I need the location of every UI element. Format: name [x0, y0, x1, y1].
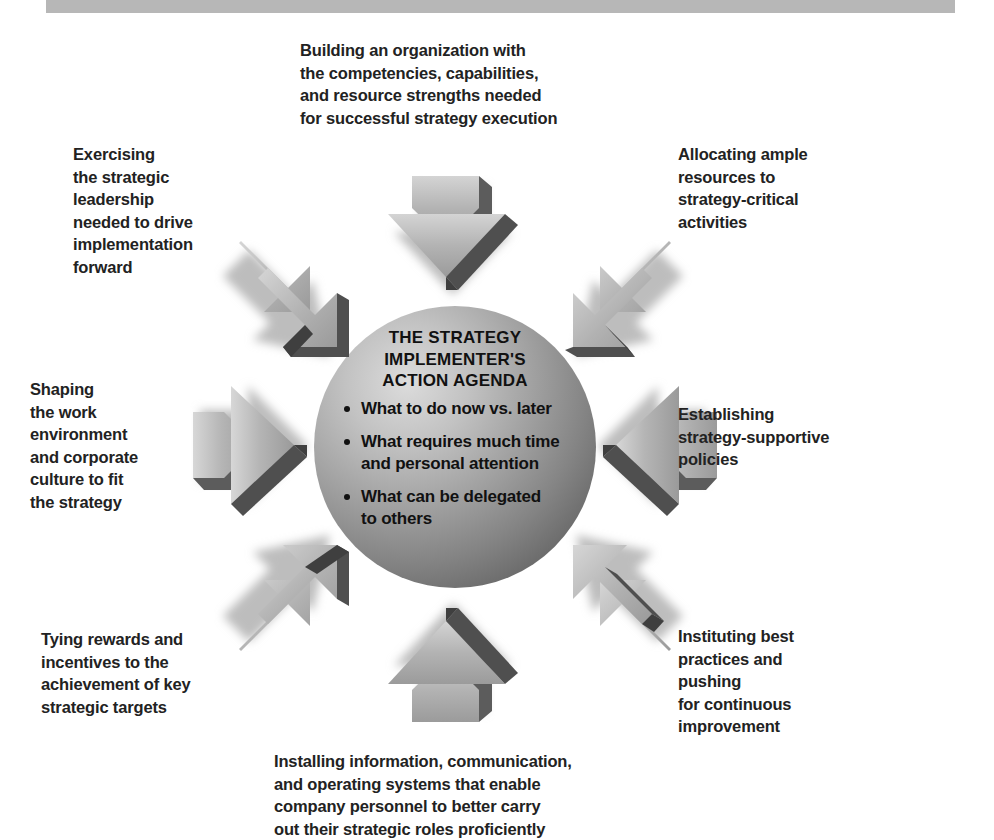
center-bullet-item: What can be delegated to others — [344, 486, 592, 530]
arrow-down-icon — [388, 176, 518, 290]
center-heading: THE STRATEGY IMPLEMENTER'S ACTION AGENDA — [318, 327, 592, 392]
spoke-label-right: Establishing strategy-supportive policie… — [678, 403, 928, 471]
spoke-label-top: Building an organization with the compet… — [300, 39, 630, 129]
center-bullet-item: What requires much time and personal att… — [344, 431, 592, 475]
spoke-label-bottom-left: Tying rewards and incentives to the achi… — [41, 628, 261, 718]
spoke-label-top-left: Exercising the strategic leadership need… — [73, 143, 283, 278]
arrow-up-icon — [388, 608, 518, 722]
spoke-label-left: Shaping the work environment and corpora… — [30, 378, 220, 513]
spoke-label-top-right: Allocating ample resources to strategy-c… — [678, 143, 908, 233]
center-bullet-item: What to do now vs. later — [344, 398, 592, 420]
spoke-label-bottom: Installing information, communication, a… — [274, 750, 694, 840]
center-agenda: THE STRATEGY IMPLEMENTER'S ACTION AGENDA… — [318, 327, 592, 577]
spoke-label-bottom-right: Instituting best practices and pushing f… — [678, 625, 908, 738]
diagram-canvas: THE STRATEGY IMPLEMENTER'S ACTION AGENDA… — [0, 0, 994, 840]
center-bullet-list: What to do now vs. later What requires m… — [318, 398, 592, 530]
